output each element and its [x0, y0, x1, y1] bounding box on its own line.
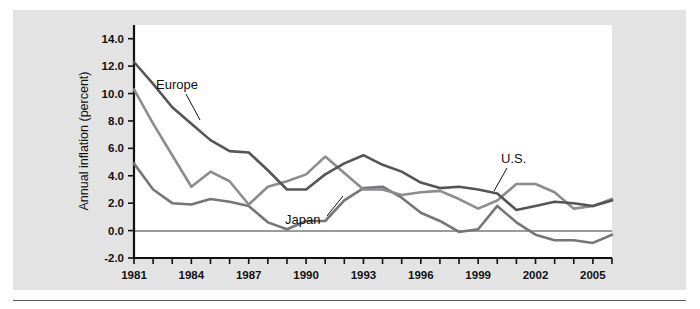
y-tick-label: 0.0 [108, 225, 124, 237]
x-tick-label: 2005 [580, 269, 606, 281]
series-line-us [134, 89, 612, 208]
x-tick-label: 1996 [408, 269, 434, 281]
x-tick-label: 2002 [523, 269, 549, 281]
y-tick-label: 6.0 [108, 142, 124, 154]
line-chart: 14.012.010.08.06.04.02.00.0-2.0 19811984… [0, 0, 700, 309]
annotation-us-leader [494, 168, 507, 191]
y-tick-label: 10.0 [102, 88, 124, 100]
x-tick-label: 1981 [121, 269, 147, 281]
data-series-group [134, 62, 612, 243]
x-tick-label: 1987 [236, 269, 262, 281]
y-tick-label: 2.0 [108, 197, 124, 209]
y-tick-label: 14.0 [102, 33, 124, 45]
y-tick-label: 8.0 [108, 115, 124, 127]
x-tick-label: 1984 [179, 269, 205, 281]
y-tick-label: 12.0 [102, 60, 124, 72]
y-tick-label: 4.0 [108, 170, 124, 182]
bottom-divider-rule [13, 300, 686, 301]
y-axis-title: Annual inflation (percent) [77, 72, 91, 211]
annotation-europe-label: Europe [156, 77, 198, 92]
annotation-japan-label: Japan [285, 212, 320, 227]
x-tick-label: 1993 [351, 269, 377, 281]
x-tick-label: 1999 [465, 269, 491, 281]
y-tick-label: -2.0 [104, 252, 124, 264]
x-axis-tick-labels: 198119841987199019931996199920022005 [121, 269, 606, 281]
x-tick-label: 1990 [293, 269, 319, 281]
y-axis-tick-labels: 14.012.010.08.06.04.02.00.0-2.0 [102, 33, 124, 264]
annotation-us-label: U.S. [501, 151, 526, 166]
annotation-europe-leader [186, 94, 200, 120]
figure-container: 14.012.010.08.06.04.02.00.0-2.0 19811984… [0, 0, 700, 309]
